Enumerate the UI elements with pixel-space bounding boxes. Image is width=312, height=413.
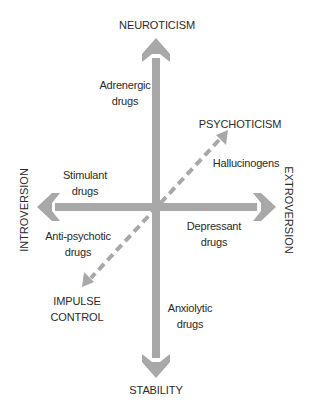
axis-label-psychoticism: PSYCHOTICISM <box>199 117 282 132</box>
label-anxiolytic-drugs: Anxiolytic drugs <box>168 300 212 332</box>
antipsychotic-line1: Anti-psychotic <box>45 228 111 244</box>
axis-label-introversion: INTROVERSION <box>18 168 30 252</box>
label-stimulant-drugs: Stimulant drugs <box>63 167 107 199</box>
impulse-control-line2: CONTROL <box>50 309 103 325</box>
axis-label-neuroticism: NEUROTICISM <box>119 18 195 33</box>
stimulant-line2: drugs <box>63 183 107 199</box>
depressant-line2: drugs <box>187 234 241 250</box>
impulse-control-line1: IMPULSE <box>50 293 103 309</box>
axis-label-impulse-control: IMPULSE CONTROL <box>50 293 103 325</box>
antipsychotic-line2: drugs <box>45 244 111 260</box>
label-adrenergic-drugs: Adrenergic drugs <box>99 77 150 109</box>
adrenergic-line1: Adrenergic <box>99 77 150 93</box>
adrenergic-line2: drugs <box>99 93 150 109</box>
stimulant-line1: Stimulant <box>63 167 107 183</box>
label-hallucinogens: Hallucinogens <box>213 156 280 171</box>
anxiolytic-line1: Anxiolytic <box>168 300 212 316</box>
label-depressant-drugs: Depressant drugs <box>187 218 241 250</box>
label-antipsychotic-drugs: Anti-psychotic drugs <box>45 228 111 260</box>
axis-label-extroversion: EXTROVERSION <box>283 166 295 253</box>
depressant-line1: Depressant <box>187 218 241 234</box>
anxiolytic-line2: drugs <box>168 316 212 332</box>
axis-label-stability: STABILITY <box>129 383 182 398</box>
personality-drug-axes <box>0 0 312 413</box>
